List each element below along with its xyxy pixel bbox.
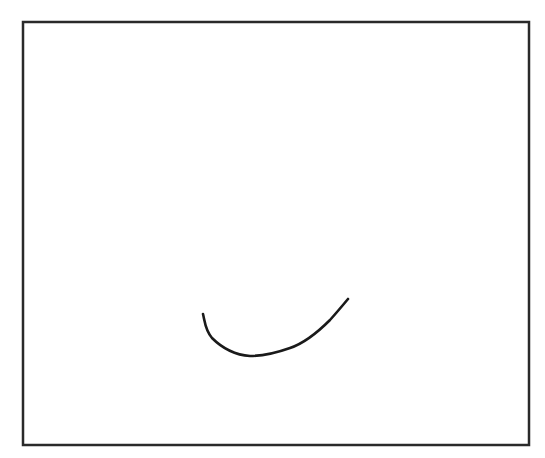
- canvas-background: [0, 0, 545, 458]
- drawing-canvas[interactable]: [0, 0, 545, 458]
